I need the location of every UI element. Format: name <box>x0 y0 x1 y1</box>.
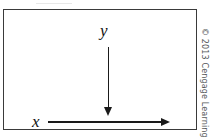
figure-border: y x <box>3 9 197 130</box>
y-arrow-head-icon <box>104 107 112 116</box>
scan-artifact-line <box>36 3 72 4</box>
x-arrow-shaft <box>48 121 163 123</box>
y-axis-label: y <box>100 22 108 39</box>
copyright-credit: © 2013 Cengage Learning <box>198 28 210 134</box>
x-axis-label: x <box>32 113 40 130</box>
y-arrow-shaft <box>108 47 110 109</box>
figure-canvas: y x © 2013 Cengage Learning <box>0 0 213 137</box>
x-arrow-head-icon <box>161 118 170 126</box>
